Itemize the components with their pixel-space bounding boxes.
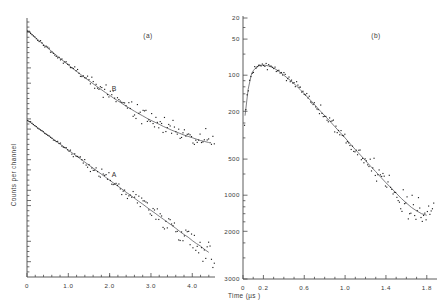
curve-label-b: B — [112, 85, 117, 92]
data-point — [86, 77, 87, 78]
panel-b-x-ticks — [243, 275, 427, 279]
data-point — [164, 228, 165, 229]
data-point — [125, 194, 126, 195]
data-point — [185, 230, 186, 231]
panel-a-x-ticks — [27, 273, 209, 277]
panel-a: 01.02.03.04.0 B A (a) Counts per channel — [10, 18, 215, 289]
data-point — [113, 184, 114, 185]
data-point — [46, 46, 47, 47]
data-point — [316, 108, 317, 109]
data-point — [125, 105, 126, 106]
data-point — [120, 188, 121, 189]
data-point — [259, 65, 260, 66]
data-point — [180, 138, 181, 139]
panel-a-x-tick-labels: 01.02.03.04.0 — [25, 282, 197, 289]
data-point — [123, 102, 124, 103]
data-point — [29, 121, 30, 122]
panel-a-x-tick-label: 1.0 — [63, 282, 73, 289]
figure-canvas: 01.02.03.04.0 B A (a) Counts per channel… — [0, 0, 443, 307]
data-point — [134, 197, 135, 198]
data-point — [53, 139, 54, 140]
data-point — [385, 185, 386, 186]
data-point — [410, 213, 411, 214]
data-point — [115, 101, 116, 102]
data-point — [188, 133, 189, 134]
data-point — [358, 150, 359, 151]
data-point — [138, 113, 139, 114]
data-point — [363, 162, 364, 163]
data-point — [273, 68, 274, 69]
data-point — [338, 130, 339, 131]
data-point — [174, 126, 175, 127]
data-point — [74, 153, 75, 154]
data-point — [73, 68, 74, 69]
data-point — [211, 259, 212, 260]
data-point — [151, 113, 152, 114]
data-point — [260, 65, 261, 66]
data-point — [278, 70, 279, 71]
data-point — [50, 137, 51, 138]
data-point — [333, 120, 334, 121]
data-point — [108, 96, 109, 97]
data-point — [394, 192, 395, 193]
data-point — [361, 159, 362, 160]
data-point — [36, 126, 37, 127]
data-point — [127, 198, 128, 199]
data-point — [90, 171, 91, 172]
data-point — [29, 31, 30, 32]
data-point — [321, 113, 322, 114]
data-point — [27, 120, 28, 121]
data-point — [190, 134, 191, 135]
data-point — [266, 63, 267, 64]
data-point — [104, 89, 105, 90]
data-point — [432, 208, 433, 209]
data-point — [400, 208, 401, 209]
data-point — [168, 124, 169, 125]
data-point — [313, 104, 314, 105]
data-point — [167, 227, 168, 228]
data-point — [293, 82, 294, 83]
data-point — [44, 46, 45, 47]
panel-b-label: (b) — [371, 32, 380, 40]
data-point — [135, 118, 136, 119]
data-point — [422, 221, 423, 222]
data-point — [84, 159, 85, 160]
data-point — [195, 140, 196, 141]
data-point — [103, 97, 104, 98]
data-point — [107, 94, 108, 95]
data-point — [187, 134, 188, 135]
panel-b-y-ticks — [243, 18, 248, 279]
data-point — [44, 133, 45, 134]
data-point — [175, 231, 176, 232]
panel-a-x-tick-label: 2.0 — [105, 282, 115, 289]
data-point — [409, 213, 410, 214]
data-point — [96, 84, 97, 85]
data-point — [175, 131, 176, 132]
data-point — [80, 156, 81, 157]
data-point — [34, 125, 35, 126]
data-point — [49, 135, 50, 136]
data-point — [150, 213, 151, 214]
data-point — [427, 211, 428, 212]
data-point — [201, 142, 202, 143]
data-point — [343, 135, 344, 136]
data-point — [148, 119, 149, 120]
data-point — [420, 217, 421, 218]
data-point — [292, 82, 293, 83]
data-point — [274, 67, 275, 68]
data-point — [419, 207, 420, 208]
data-point — [59, 57, 60, 58]
data-point — [121, 102, 122, 103]
data-point — [353, 151, 354, 152]
data-point — [205, 128, 206, 129]
data-point — [144, 200, 145, 201]
data-point — [307, 97, 308, 98]
data-point — [110, 180, 111, 181]
data-point — [53, 53, 54, 54]
data-point — [128, 195, 129, 196]
data-point — [185, 135, 186, 136]
panel-b-x-tick-label: 1.8 — [422, 284, 432, 291]
data-point — [426, 219, 427, 220]
data-point — [415, 219, 416, 220]
data-point — [212, 136, 213, 137]
